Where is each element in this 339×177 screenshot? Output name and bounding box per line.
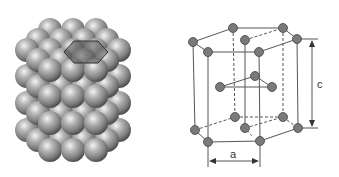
sphere: [38, 138, 62, 162]
atom: [189, 38, 198, 47]
sphere-packing-model: [0, 0, 170, 177]
atom: [229, 24, 238, 33]
atom: [294, 124, 303, 133]
dimension-label-a: a: [230, 148, 237, 160]
atom: [204, 48, 213, 57]
atom: [231, 113, 240, 122]
atom: [216, 83, 225, 92]
sphere: [61, 111, 85, 135]
sphere: [38, 111, 62, 135]
hexagon-highlight: [64, 41, 108, 63]
sphere: [84, 84, 108, 108]
unit-cell-illustration: c a: [170, 0, 339, 177]
sphere: [84, 111, 108, 135]
atom: [204, 138, 213, 147]
sphere: [38, 84, 62, 108]
dimension-label-c: c: [317, 78, 323, 90]
atom: [191, 126, 200, 135]
atom: [241, 124, 250, 133]
atom: [279, 113, 288, 122]
sphere-packing-illustration: [0, 0, 170, 177]
sphere: [61, 138, 85, 162]
sphere: [84, 138, 108, 162]
atom: [241, 36, 250, 45]
hcp-unit-cell-diagram: c a: [170, 0, 339, 177]
sphere: [61, 84, 85, 108]
atom: [268, 83, 277, 92]
sphere: [38, 58, 62, 82]
atom: [293, 35, 302, 44]
atom: [255, 48, 264, 57]
atom: [251, 72, 260, 81]
atom: [256, 137, 265, 146]
atom: [279, 24, 288, 33]
